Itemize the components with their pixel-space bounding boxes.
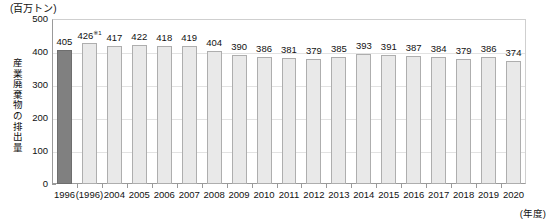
bar-highlight[interactable] bbox=[57, 50, 72, 184]
x-tick-label: 2011 bbox=[279, 189, 299, 200]
bar[interactable] bbox=[257, 57, 272, 184]
x-tick-label: 2009 bbox=[229, 189, 250, 200]
y-tick-label: 200 bbox=[22, 112, 48, 123]
x-tick-mark bbox=[152, 184, 153, 188]
x-tick-label: 2013 bbox=[328, 189, 349, 200]
bar-slot: 404 bbox=[202, 19, 227, 184]
bar-value-label: 426※1 bbox=[77, 29, 101, 41]
bar[interactable] bbox=[232, 55, 247, 184]
bar[interactable] bbox=[182, 46, 197, 184]
bar-value-label: 386 bbox=[481, 43, 497, 54]
x-tick-label: 2007 bbox=[179, 189, 200, 200]
x-tick-label: 1996 bbox=[54, 189, 75, 200]
bars-layer: 405426※141742241841940439038638137938539… bbox=[52, 19, 526, 184]
bar[interactable] bbox=[406, 56, 421, 184]
bar-slot: 386 bbox=[476, 19, 501, 184]
bar-value-label: 379 bbox=[306, 45, 322, 56]
bar[interactable] bbox=[331, 57, 346, 184]
bar-value-label: 418 bbox=[156, 32, 172, 43]
x-tick-mark bbox=[202, 184, 203, 188]
x-tick-label: 2006 bbox=[154, 189, 175, 200]
bar-slot: 374 bbox=[501, 19, 526, 184]
bar[interactable] bbox=[356, 54, 371, 184]
x-tick-label: 2015 bbox=[378, 189, 399, 200]
bar[interactable] bbox=[456, 59, 471, 184]
bar-value-label: 374 bbox=[506, 47, 522, 58]
x-tick-mark bbox=[77, 184, 78, 188]
x-tick-label: 2019 bbox=[478, 189, 499, 200]
bar-value-label: 379 bbox=[456, 45, 472, 56]
x-tick-mark bbox=[252, 184, 253, 188]
bar-slot: 387 bbox=[401, 19, 426, 184]
x-tick-mark bbox=[326, 184, 327, 188]
x-tick-mark bbox=[451, 184, 452, 188]
bar-slot: 379 bbox=[301, 19, 326, 184]
y-tick-label: 500 bbox=[22, 13, 48, 24]
x-tick-label: (1996) bbox=[76, 189, 103, 200]
x-tick-label: 2012 bbox=[303, 189, 324, 200]
x-tick-mark bbox=[476, 184, 477, 188]
bar-value-label: 419 bbox=[181, 32, 197, 43]
x-tick-mark bbox=[102, 184, 103, 188]
bar[interactable] bbox=[157, 46, 172, 184]
x-tick-mark bbox=[401, 184, 402, 188]
bar-slot: 390 bbox=[227, 19, 252, 184]
x-tick-label: 2020 bbox=[503, 189, 524, 200]
x-tick-label: 2017 bbox=[428, 189, 449, 200]
bar[interactable] bbox=[306, 59, 321, 184]
x-tick-label: 2018 bbox=[453, 189, 474, 200]
bar[interactable] bbox=[82, 43, 97, 184]
x-tick-mark bbox=[177, 184, 178, 188]
bar[interactable] bbox=[107, 46, 122, 184]
bar-value-label: 384 bbox=[431, 43, 447, 54]
x-tick-label: 2005 bbox=[129, 189, 150, 200]
bar-slot: 385 bbox=[326, 19, 351, 184]
bar-slot: 405 bbox=[52, 19, 77, 184]
x-tick-mark bbox=[277, 184, 278, 188]
y-tick-mark bbox=[52, 184, 56, 185]
bar-slot: 419 bbox=[177, 19, 202, 184]
y-tick-label: 300 bbox=[22, 79, 48, 90]
bar-slot: 386 bbox=[252, 19, 277, 184]
bar-slot: 422 bbox=[127, 19, 152, 184]
bar-value-label: 404 bbox=[206, 37, 222, 48]
bar[interactable] bbox=[132, 45, 147, 184]
bar-slot: 418 bbox=[152, 19, 177, 184]
bar-value-label: 393 bbox=[356, 40, 372, 51]
x-tick-label: 2010 bbox=[253, 189, 274, 200]
y-tick-label: 0 bbox=[22, 178, 48, 189]
x-tick-mark bbox=[426, 184, 427, 188]
x-tick-mark bbox=[127, 184, 128, 188]
y-tick-label: 400 bbox=[22, 46, 48, 57]
bar-slot: 393 bbox=[351, 19, 376, 184]
bar[interactable] bbox=[282, 58, 297, 184]
bar[interactable] bbox=[506, 61, 521, 184]
x-tick-mark bbox=[351, 184, 352, 188]
bar-value-label: 386 bbox=[256, 43, 272, 54]
x-tick-mark bbox=[376, 184, 377, 188]
bar-value-label: 391 bbox=[381, 41, 397, 52]
x-tick-label: 2014 bbox=[353, 189, 374, 200]
bar[interactable] bbox=[381, 55, 396, 184]
bar-slot: 417 bbox=[102, 19, 127, 184]
bar-value-label: 417 bbox=[106, 32, 122, 43]
bar-value-label: 390 bbox=[231, 41, 247, 52]
x-tick-mark bbox=[301, 184, 302, 188]
bar[interactable] bbox=[207, 51, 222, 184]
bar[interactable] bbox=[481, 57, 496, 184]
bar-slot: 426※1 bbox=[77, 19, 102, 184]
bar-slot: 381 bbox=[277, 19, 302, 184]
x-tick-mark bbox=[501, 184, 502, 188]
x-tick-label: 2008 bbox=[204, 189, 225, 200]
x-tick-label: 2004 bbox=[104, 189, 125, 200]
annotation-marker: ※1 bbox=[93, 30, 101, 36]
bar-value-label: 385 bbox=[331, 43, 347, 54]
bar[interactable] bbox=[431, 57, 446, 184]
bar-value-label: 422 bbox=[131, 31, 147, 42]
bar-slot: 384 bbox=[426, 19, 451, 184]
bar-slot: 391 bbox=[376, 19, 401, 184]
bar-slot: 379 bbox=[451, 19, 476, 184]
y-tick-label: 100 bbox=[22, 145, 48, 156]
x-axis-title: (年度) bbox=[520, 206, 546, 220]
industrial-waste-bar-chart: (百万トン) 産業廃棄物の排出量 0100200300400500 405426… bbox=[0, 0, 554, 224]
